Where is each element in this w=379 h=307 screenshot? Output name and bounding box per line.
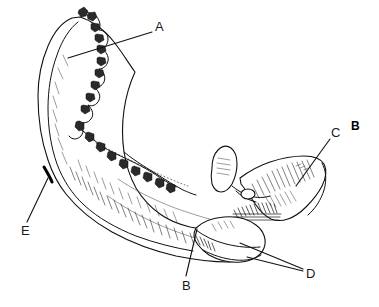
label-a: A xyxy=(155,20,164,33)
tooth-cusp-18 xyxy=(155,178,164,188)
label-e: E xyxy=(21,224,30,237)
panel-label: B xyxy=(351,120,360,133)
mandibular-ramus xyxy=(233,156,326,221)
coronoid-process xyxy=(211,146,237,192)
anatomical-figure: A B C D E B xyxy=(0,0,379,307)
leader-line-d-lower xyxy=(247,257,303,271)
mandible-drawing xyxy=(0,0,379,307)
tooth-cusp-2 xyxy=(87,12,97,21)
label-c: C xyxy=(331,126,340,139)
anterior-border-accent xyxy=(44,167,52,182)
foramen-detail xyxy=(241,189,255,199)
tooth-cusp-1 xyxy=(78,7,88,17)
label-d: D xyxy=(306,267,315,280)
tooth-cusp-16 xyxy=(131,166,140,176)
leader-line-e xyxy=(27,178,48,222)
label-b: B xyxy=(182,279,191,292)
tooth-cusp-17 xyxy=(143,172,152,182)
